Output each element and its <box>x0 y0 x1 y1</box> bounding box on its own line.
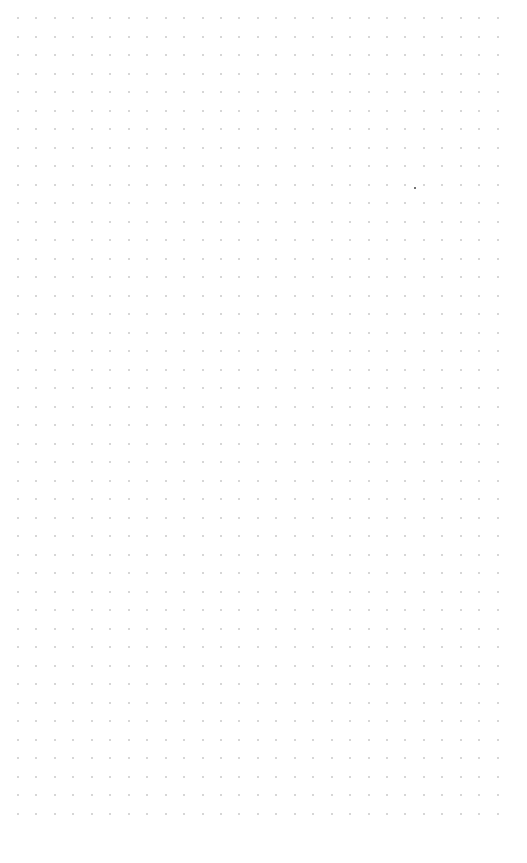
grid-dot <box>128 147 130 149</box>
grid-dot <box>404 702 406 704</box>
grid-dot <box>183 54 185 56</box>
grid-dot <box>91 239 93 241</box>
grid-dot <box>497 517 499 519</box>
grid-dot <box>460 36 462 38</box>
grid-dot <box>331 350 333 352</box>
grid-dot <box>404 17 406 19</box>
grid-dot <box>146 128 148 130</box>
grid-dot <box>275 54 277 56</box>
grid-dot <box>423 239 425 241</box>
grid-dot <box>257 258 259 260</box>
grid-dot <box>460 258 462 260</box>
grid-dot <box>441 36 443 38</box>
grid-dot <box>128 54 130 56</box>
grid-dot <box>128 794 130 796</box>
grid-dot <box>423 757 425 759</box>
grid-dot <box>91 480 93 482</box>
grid-dot <box>72 54 74 56</box>
grid-dot <box>441 813 443 815</box>
grid-dot <box>91 387 93 389</box>
grid-dot <box>202 239 204 241</box>
grid-dot <box>183 258 185 260</box>
grid-dot <box>294 295 296 297</box>
grid-dot <box>128 165 130 167</box>
grid-dot <box>478 239 480 241</box>
grid-dot <box>349 258 351 260</box>
grid-dot <box>497 295 499 297</box>
grid-dot <box>423 91 425 93</box>
grid-dot <box>202 202 204 204</box>
grid-dot <box>460 406 462 408</box>
grid-dot <box>35 54 37 56</box>
grid-dot <box>257 646 259 648</box>
grid-dot <box>349 609 351 611</box>
grid-dot <box>183 665 185 667</box>
grid-dot <box>202 165 204 167</box>
grid-dot <box>165 480 167 482</box>
grid-dot <box>497 424 499 426</box>
grid-dot <box>349 332 351 334</box>
grid-dot <box>238 202 240 204</box>
grid-dot <box>35 757 37 759</box>
grid-dot <box>220 572 222 574</box>
grid-dot <box>165 535 167 537</box>
grid-dot <box>294 165 296 167</box>
grid-dot <box>294 535 296 537</box>
grid-dot <box>54 110 56 112</box>
grid-dot <box>460 202 462 204</box>
grid-dot <box>109 276 111 278</box>
grid-dot <box>91 498 93 500</box>
grid-dot <box>386 702 388 704</box>
grid-dot <box>165 239 167 241</box>
grid-dot <box>202 498 204 500</box>
grid-dot <box>312 17 314 19</box>
grid-dot <box>35 147 37 149</box>
grid-dot <box>17 128 19 130</box>
grid-dot <box>275 683 277 685</box>
grid-dot <box>294 480 296 482</box>
grid-dot <box>386 406 388 408</box>
grid-dot <box>257 91 259 93</box>
grid-dot <box>183 461 185 463</box>
grid-dot <box>404 147 406 149</box>
grid-dot <box>35 332 37 334</box>
grid-dot <box>386 184 388 186</box>
grid-dot <box>331 406 333 408</box>
grid-dot <box>386 165 388 167</box>
grid-dot <box>441 609 443 611</box>
grid-dot <box>312 702 314 704</box>
grid-dot <box>331 369 333 371</box>
grid-dot <box>91 517 93 519</box>
grid-dot <box>460 295 462 297</box>
grid-dot <box>294 665 296 667</box>
grid-dot <box>17 350 19 352</box>
grid-dot <box>423 332 425 334</box>
grid-dot <box>202 128 204 130</box>
grid-dot <box>497 776 499 778</box>
grid-dot <box>220 258 222 260</box>
grid-dot <box>478 295 480 297</box>
grid-dot <box>368 461 370 463</box>
grid-dot <box>35 387 37 389</box>
grid-dot <box>128 332 130 334</box>
grid-dot <box>220 591 222 593</box>
grid-dot <box>478 665 480 667</box>
grid-dot <box>257 739 259 741</box>
grid-dot <box>294 572 296 574</box>
grid-dot <box>54 91 56 93</box>
grid-dot <box>294 387 296 389</box>
grid-dot <box>404 369 406 371</box>
grid-dot <box>109 147 111 149</box>
grid-dot <box>275 517 277 519</box>
grid-dot <box>460 313 462 315</box>
grid-dot <box>478 332 480 334</box>
grid-dot <box>331 332 333 334</box>
grid-dot <box>183 498 185 500</box>
grid-dot <box>91 202 93 204</box>
grid-dot <box>497 572 499 574</box>
grid-dot <box>497 332 499 334</box>
grid-dot <box>312 572 314 574</box>
grid-dot <box>368 184 370 186</box>
grid-dot <box>128 535 130 537</box>
grid-dot <box>275 720 277 722</box>
